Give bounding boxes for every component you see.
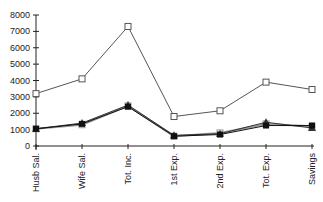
y-tick-label: 2000 [10, 108, 30, 118]
open-square-marker [217, 108, 223, 114]
y-tick-label: 4000 [10, 76, 30, 86]
x-category-label: Savings [307, 153, 317, 186]
y-tick-label: 0 [25, 141, 30, 151]
y-tick-label: 5000 [10, 59, 30, 69]
series-line [36, 105, 312, 135]
series-2 [33, 104, 315, 139]
y-tick-label: 3000 [10, 92, 30, 102]
y-tick-label: 8000 [10, 10, 30, 20]
open-square-marker [263, 79, 269, 85]
line-chart: 010002000300040005000600070008000 Husb S… [0, 0, 323, 202]
filled-square-marker [125, 104, 131, 110]
filled-square-marker [171, 133, 177, 139]
filled-square-marker [33, 126, 39, 132]
filled-square-marker [309, 123, 315, 129]
filled-square-marker [263, 123, 269, 129]
x-category-label: 2nd Exp. [215, 153, 225, 189]
x-category-label: Husb Sal. [31, 153, 41, 192]
x-category-label: Tot. Inc. [123, 153, 133, 185]
open-square-marker [79, 76, 85, 82]
y-tick-label: 1000 [10, 125, 30, 135]
x-axis: Husb Sal.Wife Sal.Tot. Inc.1st Exp.2nd E… [31, 144, 317, 192]
x-category-label: Wife Sal. [77, 153, 87, 189]
open-square-marker [309, 87, 315, 93]
y-tick-label: 6000 [10, 43, 30, 53]
filled-square-marker [217, 132, 223, 138]
filled-square-marker [79, 121, 85, 127]
series-1 [33, 23, 315, 119]
open-square-marker [125, 23, 131, 29]
x-category-label: 1st Exp. [169, 153, 179, 186]
open-square-marker [171, 114, 177, 120]
y-tick-label: 7000 [10, 26, 30, 36]
series-layer [32, 23, 316, 139]
series-line [36, 26, 312, 116]
x-category-label: Tot. Exp. [261, 153, 271, 188]
open-square-marker [33, 91, 39, 97]
